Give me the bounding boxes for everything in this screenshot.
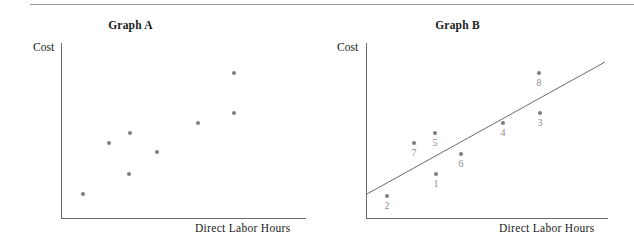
graph-a-x-axis-line [61, 218, 306, 219]
data-point [81, 192, 85, 196]
graph-a-panel: Graph A Cost Direct Labor Hours [0, 0, 317, 248]
figure-canvas: Graph A Cost Direct Labor Hours Graph B … [0, 0, 634, 248]
data-point [196, 121, 200, 125]
graph-a-title: Graph A [0, 19, 289, 31]
data-point [232, 71, 236, 75]
graph-a-y-axis-line [61, 43, 62, 219]
data-point [155, 150, 159, 154]
graph-a-plot-area [0, 0, 317, 248]
trend-line-segment [367, 62, 605, 194]
data-point [127, 172, 131, 176]
graph-a-x-axis-label: Direct Labor Hours [195, 222, 290, 234]
graph-a-y-axis-label: Cost [33, 41, 54, 53]
graph-b-panel: Graph B Cost Direct Labor Hours 27156438 [317, 0, 634, 248]
data-point [128, 131, 132, 135]
data-point [232, 111, 236, 115]
data-point [107, 141, 111, 145]
graph-b-trend-line [317, 0, 634, 248]
